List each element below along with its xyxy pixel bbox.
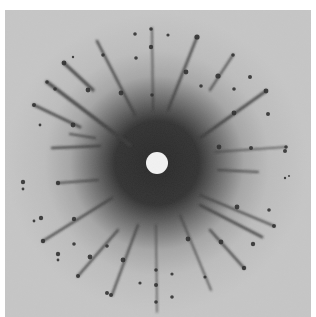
laue-diffraction-photo (5, 10, 311, 317)
film-grain (5, 10, 311, 317)
